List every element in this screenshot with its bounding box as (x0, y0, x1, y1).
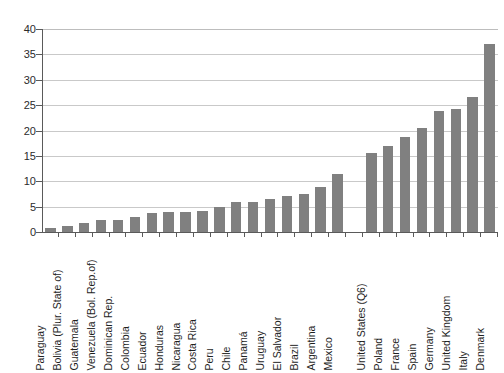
bar (96, 220, 106, 232)
y-tick-mark-40 (36, 29, 42, 30)
y-tick-mark-15 (36, 156, 42, 157)
bar (130, 217, 140, 232)
x-axis-label: Germany (423, 327, 434, 370)
bar-slot (447, 29, 464, 232)
x-tick-mark (414, 232, 431, 237)
bar-slot (380, 29, 397, 232)
x-axis-label: Mexico (322, 337, 333, 370)
bar (332, 174, 342, 232)
x-axis-label: Venezuela (Bol. Rep.of) (86, 259, 97, 370)
x-axis-label: Nicaragua (170, 322, 181, 370)
bar-slot (59, 29, 76, 232)
bar-slot (143, 29, 160, 232)
bar (282, 196, 292, 232)
x-tick-mark (346, 232, 363, 237)
bar-slot (262, 29, 279, 232)
x-axis-label: Bolivia (Plur. State of) (52, 269, 63, 370)
bar (383, 146, 393, 232)
bar (400, 137, 410, 232)
bar-slot (160, 29, 177, 232)
x-axis-label: Dominican Rep. (103, 295, 114, 370)
bar-slot (329, 29, 346, 232)
bar (417, 128, 427, 232)
x-tick-mark (211, 232, 228, 237)
x-axis-label: Peru (204, 348, 215, 370)
x-axis-labels: ParaguayBolivia (Plur. State of)Guatemal… (42, 238, 498, 370)
x-label-cell: Denmark (481, 238, 498, 370)
x-tick-mark (194, 232, 211, 237)
x-tick-mark (177, 232, 194, 237)
x-axis-ticks (42, 232, 498, 237)
y-tick-label-35: 35 (2, 49, 36, 60)
y-tick-mark-0 (36, 232, 42, 233)
x-axis-label: Chile (221, 346, 232, 370)
x-tick-mark (447, 232, 464, 237)
bar-slot (312, 29, 329, 232)
bar-slot (295, 29, 312, 232)
bar (147, 213, 157, 232)
x-tick-mark (262, 232, 279, 237)
x-axis-label: Italy (457, 351, 468, 370)
x-axis-label: United States (Q6) (356, 283, 367, 370)
x-tick-mark (278, 232, 295, 237)
bar-slot (414, 29, 431, 232)
x-tick-mark (93, 232, 110, 237)
x-tick-mark (380, 232, 397, 237)
x-label-cell: Mexico (329, 238, 346, 370)
bar-slot (363, 29, 380, 232)
y-axis-labels: 0510152025303540 (0, 0, 36, 373)
x-tick-mark (430, 232, 447, 237)
bar-slot (430, 29, 447, 232)
bar (180, 212, 190, 232)
bar-slot (76, 29, 93, 232)
x-axis-label: Colombia (119, 326, 130, 370)
x-axis-label: Denmark (474, 327, 485, 370)
x-tick-mark (143, 232, 160, 237)
y-tick-label-15: 15 (2, 150, 36, 161)
y-tick-mark-25 (36, 105, 42, 106)
x-axis-label: Brazil (288, 344, 299, 370)
x-tick-mark (245, 232, 262, 237)
x-axis-label: Argentina (305, 325, 316, 370)
y-tick-mark-20 (36, 131, 42, 132)
bar-slot (481, 29, 498, 232)
y-tick-label-25: 25 (2, 100, 36, 111)
x-axis-label: Panamá (238, 331, 249, 370)
y-tick-label-0: 0 (2, 227, 36, 238)
bar (214, 207, 224, 232)
y-tick-mark-5 (36, 207, 42, 208)
bar-slot (211, 29, 228, 232)
bar-slot (93, 29, 110, 232)
x-axis-label: United Kingdom (440, 295, 451, 370)
bar (451, 109, 461, 232)
x-axis-label: Spain (407, 343, 418, 370)
bar-slot (464, 29, 481, 232)
bar (113, 220, 123, 232)
bar (197, 211, 207, 232)
x-tick-mark (397, 232, 414, 237)
bar-slot (397, 29, 414, 232)
bar-slot (278, 29, 295, 232)
x-tick-mark (464, 232, 481, 237)
x-tick-mark (126, 232, 143, 237)
y-tick-label-40: 40 (2, 24, 36, 35)
x-tick-mark (42, 232, 59, 237)
bar (163, 212, 173, 232)
y-tick-mark-35 (36, 54, 42, 55)
bar (366, 153, 376, 232)
x-tick-mark (228, 232, 245, 237)
x-axis-label: El Salvador (271, 316, 282, 370)
x-tick-mark (363, 232, 380, 237)
bar-slot (42, 29, 59, 232)
x-tick-mark (76, 232, 93, 237)
x-axis-label: Ecuador (136, 331, 147, 370)
bar-slot (346, 29, 363, 232)
y-tick-label-5: 5 (2, 201, 36, 212)
bar (484, 44, 494, 232)
bar-slot (228, 29, 245, 232)
x-tick-mark (59, 232, 76, 237)
x-axis-label: Costa Rica (187, 319, 198, 370)
bar-slot (245, 29, 262, 232)
x-label-cell: United Kingdom (447, 238, 464, 370)
bar (315, 187, 325, 232)
